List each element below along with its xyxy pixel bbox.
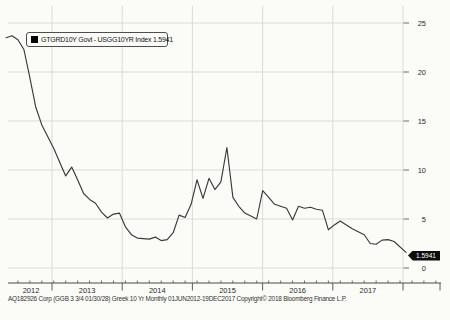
series-line [6, 36, 406, 253]
x-axis-year-label: 2014 [149, 286, 166, 295]
x-axis-year-label: 2012 [23, 286, 40, 295]
series-marker-icon [31, 36, 38, 43]
y-axis-tick-label: 10 [406, 166, 426, 175]
legend-label: GTGRD10Y Govt - USGG10YR Index 1.5941 [41, 36, 173, 43]
y-axis-tick-label: 0 [406, 264, 426, 273]
x-axis-year-label: 2017 [360, 286, 377, 295]
x-axis-year-label: 2015 [219, 286, 236, 295]
y-axis-tick-label: 20 [406, 68, 426, 77]
y-axis-tick-label: 25 [406, 19, 426, 28]
x-axis-year-label: 2013 [79, 286, 96, 295]
x-axis-year-label: 2016 [289, 286, 306, 295]
last-value-badge: 1.5941 [408, 251, 440, 261]
y-axis-tick-label: 5 [406, 215, 426, 224]
y-axis-tick-label: 15 [406, 117, 426, 126]
chart-canvas [0, 0, 450, 320]
bloomberg-spread-chart: GTGRD10Y Govt - USGG10YR Index 1.5941 1.… [0, 0, 450, 320]
legend[interactable]: GTGRD10Y Govt - USGG10YR Index 1.5941 [26, 32, 168, 47]
chart-footer: AQ182926 Corp (GGB 3 3/4 01/30/28) Greek… [8, 295, 347, 302]
